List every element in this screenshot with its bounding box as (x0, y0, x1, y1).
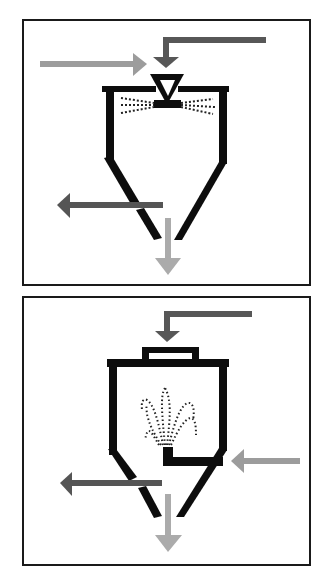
diagram-canvas (0, 0, 324, 580)
feed-inlet-arrow-icon (155, 311, 252, 342)
product-outlet-arrow-icon (155, 218, 181, 275)
panel-top (23, 20, 310, 285)
vessel-top-cap (142, 347, 199, 361)
product-outlet-arrow-icon (155, 494, 182, 552)
spray-dryer-vessel (102, 86, 229, 240)
side-air-inlet-arrow-icon (231, 449, 300, 473)
panel-bottom (23, 297, 310, 565)
feed-inlet-arrow-icon (153, 37, 266, 68)
drying-air-inlet-arrow-icon (40, 53, 147, 76)
diagram-stage: Spray drying vs fluid-bed agglomeration … (0, 0, 324, 580)
spray-pattern-fountain (142, 388, 196, 445)
